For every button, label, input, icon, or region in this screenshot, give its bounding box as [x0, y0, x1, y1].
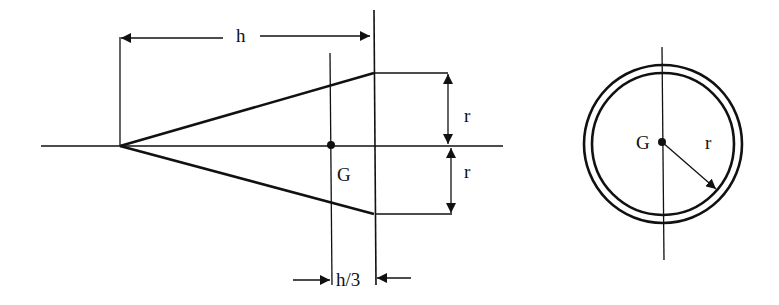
cone-centroid-diagram: G h r r h/3 G r: [0, 0, 779, 305]
radius-dimensions: r r: [374, 73, 471, 214]
radius-label: r: [705, 132, 712, 153]
centroid-point: [327, 141, 335, 149]
vertical-axis-line: [662, 47, 664, 260]
height-dimension: h: [121, 25, 370, 46]
radius-top-label: r: [464, 105, 471, 126]
cone-top-edge: [120, 73, 374, 146]
height-label: h: [236, 25, 246, 46]
cone-base-line: [374, 10, 376, 285]
end-view: G r: [584, 47, 742, 260]
cone-bottom-edge: [120, 146, 374, 214]
centroid-label: G: [636, 132, 650, 153]
centroid-offset-dimension: h/3: [293, 269, 411, 290]
centroid-label: G: [337, 164, 351, 185]
radius-bottom-label: r: [464, 161, 471, 182]
side-view: G h r r h/3: [41, 10, 503, 290]
offset-label: h/3: [336, 269, 360, 290]
centroid-line: [330, 53, 332, 285]
